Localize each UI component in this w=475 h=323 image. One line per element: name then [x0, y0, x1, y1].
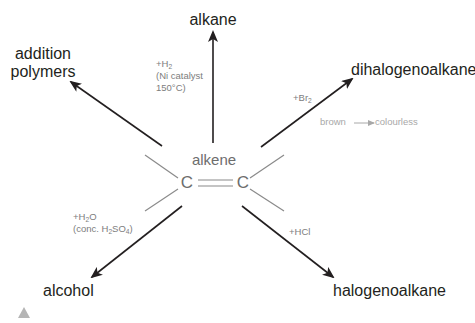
bond-right-upper	[250, 155, 284, 178]
hydrogenation-temperature: 150°C)	[156, 82, 203, 94]
bond-left-upper	[145, 155, 178, 178]
product-addition-polymers-line2: polymers	[11, 63, 76, 81]
product-dihalogenoalkane: dihalogenoalkane	[351, 61, 475, 79]
triangle-icon	[18, 307, 30, 318]
carbon-atom-right: C	[237, 173, 249, 193]
product-alkane: alkane	[189, 11, 236, 29]
hydration-reagent: +H2O	[73, 211, 133, 223]
hydration-catalyst: (conc. H2SO4)	[73, 223, 133, 235]
hydrohalogenation-reagent: +HCl	[289, 226, 310, 238]
bromination-reagent: +Br2	[293, 92, 312, 104]
arrow-to-halogenoalkane	[242, 206, 333, 277]
product-addition-polymers: addition polymers	[11, 45, 76, 82]
bond-right-lower	[250, 189, 284, 211]
arrow-to-addition-polymers	[71, 82, 162, 146]
alkene-reactions-diagram: alkene C C alkane addition polymers diha…	[0, 0, 475, 323]
bond-left-lower	[145, 189, 178, 211]
product-addition-polymers-line1: addition	[11, 45, 76, 63]
colour-change-to: colourless	[375, 117, 418, 128]
condition-hydration: +H2O (conc. H2SO4)	[73, 211, 133, 235]
hydrogenation-catalyst: (Ni catalyst	[156, 70, 203, 82]
alkene-label: alkene	[192, 151, 236, 168]
hydrogenation-reagent: +H2	[156, 58, 203, 70]
arrow-to-dihalogenoalkane	[261, 79, 352, 147]
carbon-atom-left: C	[181, 173, 193, 193]
product-alcohol: alcohol	[43, 282, 94, 300]
condition-hydrogenation: +H2 (Ni catalyst 150°C)	[156, 58, 203, 94]
colour-change-from: brown	[320, 117, 346, 128]
product-halogenoalkane: halogenoalkane	[333, 282, 446, 300]
